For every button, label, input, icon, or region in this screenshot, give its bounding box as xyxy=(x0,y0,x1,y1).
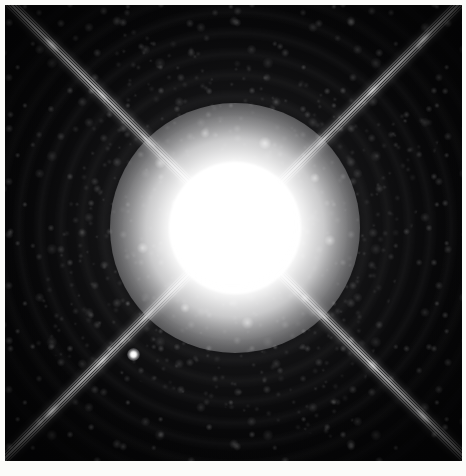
astronomical-image-figure xyxy=(0,0,466,476)
plate-margin-top xyxy=(0,0,466,5)
plate-margin-bottom xyxy=(0,461,466,476)
plate-margin-left xyxy=(0,0,5,476)
plate-margin-right xyxy=(462,0,466,476)
corner-vignette xyxy=(5,5,462,461)
sky-frame xyxy=(5,5,462,461)
